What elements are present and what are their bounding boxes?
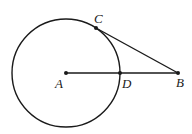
label-d: D (121, 76, 132, 91)
label-c: C (94, 11, 103, 26)
geometry-diagram: A D B C (0, 0, 192, 134)
label-a: A (54, 76, 63, 91)
point-d (118, 71, 122, 75)
point-c (94, 26, 98, 30)
label-b: B (176, 75, 184, 90)
point-a (64, 71, 68, 75)
segment-cb (96, 28, 178, 73)
